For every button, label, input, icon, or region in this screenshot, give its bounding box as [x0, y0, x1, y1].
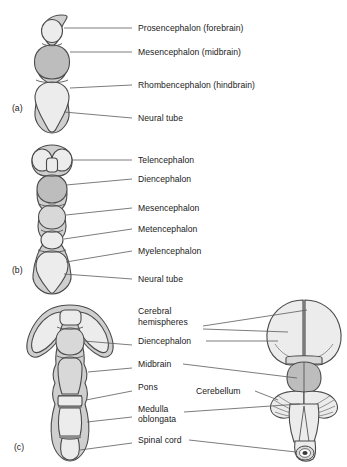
label-hemispheres: hemispheres [138, 317, 188, 327]
leader-myelencephalon [66, 251, 132, 262]
diencephalon-region-c [56, 328, 84, 355]
label-spinal-cord: Spinal cord [138, 435, 182, 445]
leader-neural-tube-b [64, 274, 132, 279]
label-midbrain: Midbrain [138, 359, 171, 369]
panel-b-illustration [32, 145, 72, 294]
panel-c-right-illustration [267, 300, 341, 461]
medulla-region-c [59, 408, 82, 436]
leader-cerebellum [255, 391, 278, 400]
metencephalon-vesicle [41, 231, 63, 249]
label-cerebral: Cerebral [138, 306, 171, 316]
telencephalon-midline-c [60, 310, 81, 325]
spinal-cord-c [61, 438, 80, 460]
telencephalon-midline [47, 158, 58, 172]
label-metencephalon: Metencephalon [138, 224, 197, 234]
leader-pons-c-left [86, 391, 132, 400]
panel-tag-c: (c) [14, 442, 24, 452]
label-rhombencephalon: Rhombencephalon (hindbrain) [138, 80, 255, 90]
label-myelencephalon: Myelencephalon [138, 246, 201, 256]
panel-tag-b: (b) [12, 265, 23, 275]
leader-diencephalon-b [66, 179, 132, 185]
label-neural-tube-a: Neural tube [138, 113, 183, 123]
leader-metencephalon [64, 229, 132, 239]
midbrain-region-c [58, 357, 82, 394]
label-oblongata: oblongata [138, 414, 176, 424]
panel-a-leaders [64, 28, 132, 118]
leader-neural-tube-a [64, 112, 132, 118]
spinal-cord-section-inner [302, 451, 307, 455]
cerebral-hemisphere-right-mature [305, 300, 341, 365]
mesencephalon-vesicle [35, 45, 70, 79]
panel-a-illustration [35, 15, 70, 133]
label-mesencephalon-b: Mesencephalon [138, 203, 199, 213]
leader-midbrain-c-right [183, 364, 297, 378]
pons-region-c [58, 396, 82, 406]
panel-c-left-illustration [27, 305, 113, 461]
leader-spinal-cord-c-right [189, 440, 296, 452]
label-prosencephalon: Prosencephalon (forebrain) [138, 23, 243, 33]
label-diencephalon-b: Diencephalon [138, 174, 191, 184]
mesencephalon-vesicle-b [39, 205, 66, 229]
label-mesencephalon-a: Mesencephalon (midbrain) [138, 47, 241, 57]
leader-rhombencephalon [70, 85, 132, 88]
label-medulla: Medulla [138, 404, 168, 414]
panel-tag-a: (a) [12, 103, 23, 113]
diencephalon-vesicle-b [37, 175, 67, 203]
label-diencephalon-c: Diencephalon [138, 336, 191, 346]
prosencephalon-vesicle [42, 20, 63, 43]
label-neural-tube-b: Neural tube [138, 274, 183, 284]
pons-medulla-mature [289, 404, 319, 442]
label-cerebellum: Cerebellum [196, 386, 240, 396]
leader-mesencephalon-b [66, 208, 132, 215]
leader-spinal-cord-c-left [80, 443, 132, 450]
leader-midbrain-c-left [88, 368, 132, 372]
leader-medulla-c-left [87, 417, 132, 422]
panel-b-leaders [64, 160, 132, 279]
label-pons: Pons [138, 382, 158, 392]
label-telencephalon: Telencephalon [138, 155, 194, 165]
cerebral-hemisphere-left-mature [267, 300, 303, 365]
brain-development-figure: .ol{stroke:#4a4a4a;stroke-width:1.1;} .o… [0, 0, 347, 467]
